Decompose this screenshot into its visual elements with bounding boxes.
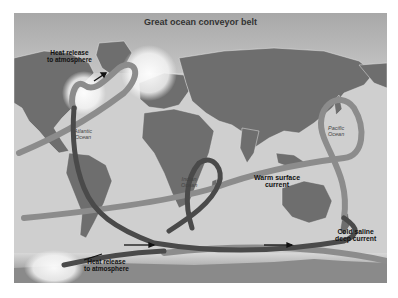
label-cold-deep-current: Cold saline deep current [335,228,376,242]
label-heat-release-north: Heat release to atmosphere [47,50,92,64]
label-line: Ocean [181,182,197,188]
heat-glow-north-east [121,45,177,101]
label-line: Ocean [328,131,344,137]
conveyor-belt-diagram: Great ocean conveyor belt Heat release t… [14,13,387,283]
label-atlantic-ocean: Atlantic Ocean [74,128,92,141]
label-line: Warm surface [254,174,300,181]
label-heat-release-south: Heat release to atmosphere [84,259,129,273]
label-indian-ocean: Indian Ocean [181,176,197,189]
label-line: to atmosphere [47,57,92,64]
label-line: to atmosphere [84,266,129,273]
label-line: deep current [335,235,376,242]
label-warm-surface-current: Warm surface current [254,174,300,189]
label-pacific-ocean: Pacific Ocean [328,125,344,138]
label-line: Cold saline [335,228,376,235]
label-line: Ocean [74,134,92,140]
diagram-title: Great ocean conveyor belt [14,17,387,27]
label-line: current [254,181,300,188]
